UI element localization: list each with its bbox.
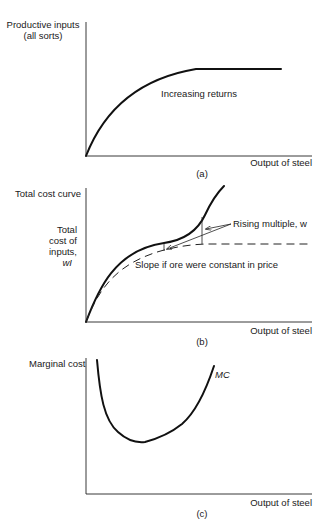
panel-b-dashed-label: Slope if ore were constant in price: [135, 259, 278, 270]
panel-c-mc-label: MC: [215, 369, 230, 380]
figure: Productive inputs (all sorts) Increasing…: [0, 0, 330, 519]
panel-b-arrow-lower: [167, 224, 231, 249]
panel-a: Productive inputs (all sorts) Increasing…: [7, 19, 312, 179]
panel-b-total-cost-curve: [86, 186, 224, 322]
panel-b-arrow-upper: [206, 224, 231, 229]
panel-a-ylabel-2: (all sorts): [23, 30, 62, 41]
panel-b: Total cost curve Total cost of inputs, w…: [15, 186, 312, 347]
panel-b-arrow-label: Rising multiple, w: [233, 218, 307, 229]
panel-b-ylabel-1: Total: [57, 224, 77, 235]
panel-b-ylabel-3: inputs,: [49, 246, 77, 257]
panel-b-title: Total cost curve: [15, 188, 81, 199]
panel-c-ylabel: Marginal cost: [29, 358, 86, 369]
panel-b-ylabel-2: cost of: [49, 235, 77, 246]
panel-a-annotation: Increasing returns: [161, 88, 237, 99]
panel-c-xlabel: Output of steel: [250, 497, 312, 508]
panel-c-mc-curve: [97, 360, 214, 442]
panel-a-xlabel: Output of steel: [250, 157, 312, 168]
panel-c-caption: (c): [196, 508, 207, 519]
panel-a-inputs-curve: [86, 69, 281, 156]
panel-b-axes: [86, 188, 312, 322]
panel-a-ylabel-1: Productive inputs: [7, 19, 80, 30]
panel-a-caption: (a): [196, 168, 208, 179]
panel-c-axes: [86, 358, 312, 494]
panel-c: Marginal cost MC Output of steel (c): [29, 358, 312, 519]
panel-b-xlabel: Output of steel: [250, 325, 312, 336]
panel-b-constant-price-curve: [86, 244, 308, 322]
panel-b-caption: (b): [196, 336, 208, 347]
panel-b-ylabel-4: wI: [63, 257, 73, 268]
